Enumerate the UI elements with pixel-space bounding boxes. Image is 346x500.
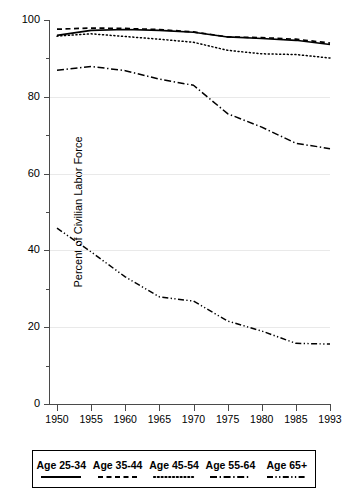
legend-items: Age 25-34Age 35-44Age 45-54Age 55-64Age … [33,451,315,487]
y-axis-tick-label: 100 [0,14,40,25]
x-axis-tick-label: 1950 [45,414,68,425]
legend-item-label: Age 65+ [267,460,308,471]
legend-line-swatch [266,475,308,478]
series-lines [50,20,330,404]
series-line [57,228,330,344]
x-axis-tick [330,405,331,411]
x-axis-tick-label: 1993 [318,414,341,425]
series-line [57,66,330,148]
x-axis-tick [125,405,126,411]
y-axis-tick-label: 20 [0,321,40,332]
x-axis-tick-label: 1985 [284,414,307,425]
legend-item[interactable]: Age 55-64 [202,451,258,487]
legend-item-label: Age 35-44 [93,460,143,471]
legend-item[interactable]: Age 35-44 [89,451,145,487]
x-axis-tick-label: 1980 [250,414,273,425]
legend-item-label: Age 25-34 [36,460,86,471]
x-axis-tick [194,405,195,411]
legend-line-swatch [209,475,251,478]
y-axis-label: Percent of Civilian Labor Force [4,20,26,404]
x-axis-tick [296,405,297,411]
y-axis-tick-label: 60 [0,168,40,179]
legend-item[interactable]: Age 65+ [259,451,315,487]
x-axis-decorations: 195019551960196519701975198019851993 [50,405,330,435]
plot-area [50,20,330,404]
x-axis-tick [159,405,160,411]
chart-figure: Percent of Civilian Labor Force 02040608… [0,0,346,500]
legend-line-swatch [153,475,195,478]
y-axis-tick-label: 40 [0,244,40,255]
x-axis-tick-label: 1955 [79,414,102,425]
legend-item-label: Age 45-54 [149,460,199,471]
x-axis-tick [57,405,58,411]
y-axis-tick-label: 80 [0,91,40,102]
legend: Age 25-34Age 35-44Age 45-54Age 55-64Age … [32,450,316,488]
legend-item[interactable]: Age 45-54 [146,451,202,487]
x-axis-tick-label: 1970 [182,414,205,425]
x-axis-tick [262,405,263,411]
y-axis-tick-label: 0 [0,398,40,409]
x-axis-tick-label: 1960 [114,414,137,425]
legend-item[interactable]: Age 25-34 [33,451,89,487]
legend-line-swatch [97,475,139,478]
x-axis-tick [228,405,229,411]
x-axis-tick-label: 1965 [148,414,171,425]
legend-line-swatch [40,475,82,478]
x-axis-tick-label: 1975 [216,414,239,425]
series-line [57,34,330,58]
x-axis-tick [91,405,92,411]
legend-item-label: Age 55-64 [206,460,256,471]
